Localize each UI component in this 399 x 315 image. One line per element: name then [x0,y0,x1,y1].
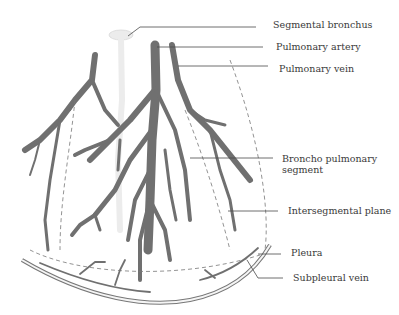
label-broncho-pulmonary-segment-line1: Broncho pulmonary [282,153,377,164]
pulmonary-vein-tree [172,45,250,230]
label-pulmonary-vein: Pulmonary vein [279,63,354,74]
diagram-canvas: Segmental bronchus Pulmonary artery Pulm… [0,0,399,315]
intersegmental-plane-left [60,100,75,250]
label-pleura: Pleura [291,247,322,258]
label-pulmonary-artery: Pulmonary artery [276,41,361,52]
intersegmental-plane-outer [230,60,266,250]
label-segmental-bronchus: Segmental bronchus [273,19,372,30]
label-subpleural-vein: Subpleural vein [293,272,369,283]
label-broncho-pulmonary-segment-line2: segment [282,164,323,175]
left-vein-tree [25,55,118,250]
label-intersegmental-plane: Intersegmental plane [288,205,391,216]
